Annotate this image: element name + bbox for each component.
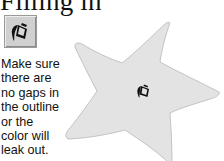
star-illustration	[0, 0, 224, 161]
